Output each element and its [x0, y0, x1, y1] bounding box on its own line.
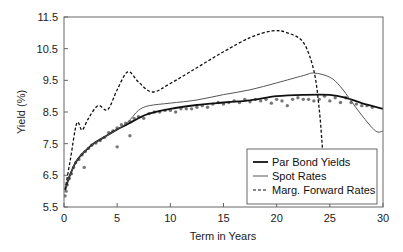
data-point-marker: [355, 102, 358, 105]
data-point-marker: [190, 107, 193, 110]
data-point-marker: [307, 98, 310, 101]
data-point-marker: [206, 106, 209, 109]
y-tick-label: 10.5: [37, 43, 58, 55]
x-axis-ticks: 051015202530: [61, 203, 389, 224]
data-point-marker: [302, 98, 305, 101]
x-tick-label: 0: [61, 212, 67, 224]
x-tick-label: 25: [324, 212, 336, 224]
y-tick-label: 7.5: [43, 138, 58, 150]
y-axis-ticks: 5.56.57.58.59.510.511.5: [37, 11, 68, 213]
x-tick-label: 10: [164, 212, 176, 224]
data-point-marker: [339, 101, 342, 104]
data-point-marker: [296, 96, 299, 99]
data-point-marker: [270, 101, 273, 104]
data-point-marker: [185, 107, 188, 110]
x-tick-label: 5: [114, 212, 120, 224]
legend: Par Bond Yields Spot Rates Marg. Forward…: [247, 149, 377, 204]
data-point-marker: [174, 110, 177, 113]
x-axis-title: Term in Years: [190, 230, 257, 242]
data-point-marker: [291, 98, 294, 101]
legend-label: Marg. Forward Rates: [272, 184, 376, 196]
data-point-marker: [64, 189, 67, 192]
data-point-marker: [115, 145, 118, 148]
legend-item-marg-forward-rates: Marg. Forward Rates: [253, 184, 376, 196]
x-tick-label: 15: [217, 212, 229, 224]
legend-label: Spot Rates: [272, 170, 327, 182]
legend-label: Par Bond Yields: [272, 156, 351, 168]
y-tick-label: 6.5: [43, 169, 58, 181]
data-point-marker: [312, 99, 315, 102]
yield-curve-chart: Yield (%) Term in Years 5.56.57.58.59.51…: [0, 0, 403, 252]
data-point-marker: [195, 106, 198, 109]
data-point-marker: [128, 134, 131, 137]
data-point-marker: [280, 99, 283, 102]
y-axis-title-group: Yield (%): [15, 90, 27, 134]
y-tick-label: 11.5: [37, 11, 58, 23]
data-point-marker: [360, 104, 363, 107]
data-point-marker: [286, 104, 289, 107]
x-tick-label: 30: [377, 212, 389, 224]
data-point-marker: [328, 99, 331, 102]
y-tick-label: 8.5: [43, 106, 58, 118]
x-tick-label: 20: [271, 212, 283, 224]
y-tick-label: 9.5: [43, 74, 58, 86]
y-axis-title: Yield (%): [15, 90, 27, 134]
data-point-marker: [275, 98, 278, 101]
data-point-marker: [83, 166, 86, 169]
y-tick-label: 5.5: [43, 201, 58, 213]
